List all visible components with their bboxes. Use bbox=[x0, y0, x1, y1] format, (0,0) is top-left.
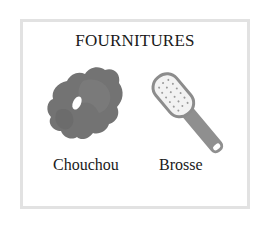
scrunchie-icon bbox=[37, 61, 127, 143]
supplies-card: FOURNITURES Chouchou B bbox=[20, 19, 250, 209]
card-title: FOURNITURES bbox=[23, 31, 247, 51]
hairbrush-icon bbox=[143, 64, 243, 164]
scrunchie-label: Chouchou bbox=[53, 156, 119, 174]
brush-label: Brosse bbox=[159, 156, 203, 174]
